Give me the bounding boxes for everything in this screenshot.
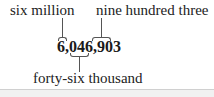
label-thousands: forty-six thousand: [33, 71, 143, 86]
label-millions: six million: [10, 3, 75, 18]
footer-band: [0, 90, 214, 97]
connector-ones: [101, 18, 102, 37]
number-value: 6,046,903: [57, 39, 121, 55]
label-ones: nine hundred three: [96, 3, 208, 18]
connector-millions: [62, 18, 63, 37]
